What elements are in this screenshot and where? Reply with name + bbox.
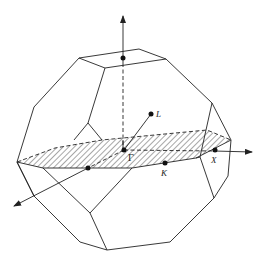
point-x bbox=[213, 148, 218, 153]
label-l: L bbox=[155, 109, 161, 119]
brillouin-zone-diagram: Γ L K X bbox=[0, 0, 263, 260]
edge-lower-mid bbox=[90, 168, 132, 213]
point-top-x bbox=[121, 56, 126, 61]
point-gamma bbox=[122, 148, 127, 153]
label-x: X bbox=[210, 155, 217, 165]
edge-left-hex bbox=[88, 123, 102, 140]
label-k: K bbox=[160, 168, 168, 178]
point-k bbox=[163, 161, 168, 166]
point-front-x bbox=[86, 166, 91, 171]
edge-lower-left bbox=[17, 162, 34, 196]
label-gamma: Γ bbox=[128, 152, 134, 163]
kx-axis bbox=[214, 151, 252, 152]
edge-upper-left bbox=[74, 68, 105, 140]
edge-lower-front bbox=[43, 168, 107, 250]
point-l bbox=[149, 112, 154, 117]
